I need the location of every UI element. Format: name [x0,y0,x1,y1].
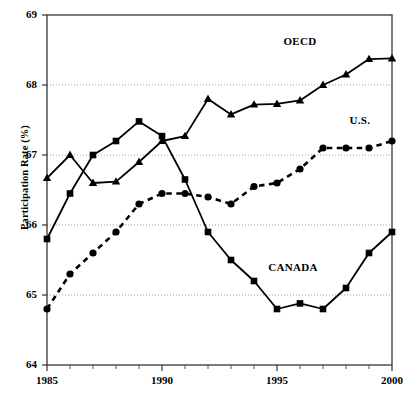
data-point-marker [112,228,119,235]
y-tick-label: 65 [15,288,37,300]
data-point-marker [66,151,74,158]
y-tick-label: 64 [15,358,37,370]
data-point-marker [158,190,165,197]
data-point-marker [342,144,349,151]
data-point-marker [228,257,235,264]
data-point-marker [343,285,350,292]
axis-frame [47,15,392,365]
data-point-marker [159,133,166,140]
data-point-marker [365,144,372,151]
data-point-marker [135,200,142,207]
data-point-marker [274,306,281,313]
data-point-marker [388,137,395,144]
x-tick-label: 1990 [140,374,184,386]
data-point-marker [66,270,73,277]
y-tick-label: 69 [15,8,37,20]
series-label-u-s: U.S. [349,114,370,126]
data-point-marker [136,118,143,125]
data-series-layer [43,54,396,313]
data-point-marker [205,229,212,236]
data-point-marker [44,236,51,243]
series-label-oecd: OECD [284,35,317,47]
x-tick-label: 2000 [370,374,412,386]
data-point-marker [296,165,303,172]
series-label-canada: CANADA [268,261,317,273]
axis-ticks [42,15,392,371]
data-point-marker [67,190,74,197]
data-point-marker [113,138,120,145]
data-point-marker [251,278,258,285]
participation-rate-chart: Participation Rate (%) 646566676869 1985… [0,0,412,400]
data-point-marker [43,305,50,312]
y-tick-label: 67 [15,148,37,160]
data-point-marker [296,96,304,103]
data-point-marker [320,306,327,313]
data-point-marker [181,190,188,197]
data-point-marker [182,176,189,183]
plot-area [0,0,412,400]
data-point-marker [89,249,96,256]
data-point-marker [297,300,304,307]
data-point-marker [273,179,280,186]
y-tick-label: 66 [15,218,37,230]
data-point-marker [342,70,350,77]
data-point-marker [250,183,257,190]
series-oecd [43,54,396,186]
data-point-marker [90,152,97,159]
data-point-marker [389,229,396,236]
x-tick-label: 1985 [25,374,69,386]
data-point-marker [204,95,212,102]
data-point-marker [319,144,326,151]
y-tick-label: 68 [15,78,37,90]
y-axis-title: Participation Rate (%) [19,98,30,258]
data-point-marker [227,200,234,207]
data-point-marker [366,250,373,257]
x-tick-label: 1995 [255,374,299,386]
gridlines [47,85,392,295]
data-point-marker [204,193,211,200]
